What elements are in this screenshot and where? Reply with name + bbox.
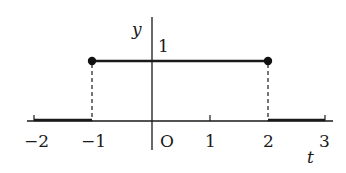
x-tick-label-minus-2: −2 [24,131,49,151]
pulse-plot: y 1 O t −2 −1 1 2 3 [0,0,346,173]
y-tick-label-1: 1 [158,36,169,56]
t-axis-label: t [307,147,314,167]
x-tick-label-3: 3 [319,131,330,151]
endpoint-dot-left [88,57,96,65]
origin-label: O [160,131,174,151]
x-tick-label-2: 2 [263,131,274,151]
x-tick-label-minus-1: −1 [81,131,106,151]
endpoint-dot-right [264,57,272,65]
y-axis-label: y [131,19,142,39]
x-tick-label-1: 1 [205,131,216,151]
